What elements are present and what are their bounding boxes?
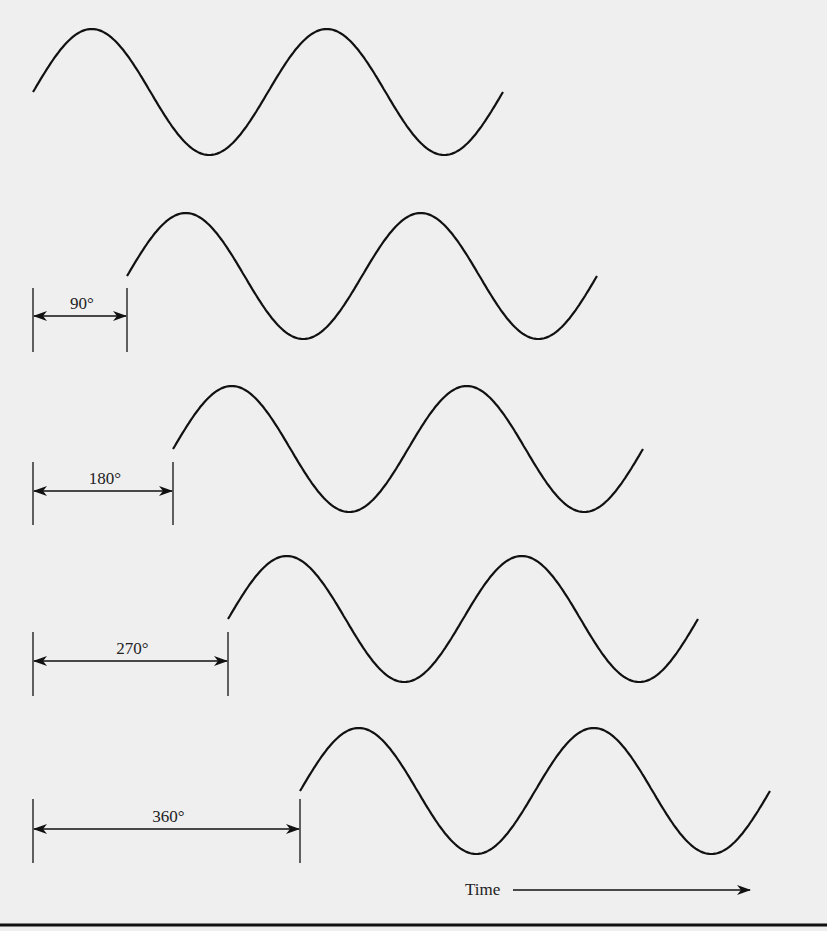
- sine-wave-shift-360: [300, 728, 770, 854]
- sine-wave-reference: [33, 29, 503, 155]
- time-axis-label: Time: [465, 880, 500, 900]
- phase-shift-diagram: [0, 0, 827, 931]
- phase-label: 360°: [152, 807, 184, 827]
- sine-wave-shift-90: [127, 213, 597, 339]
- phase-label: 90°: [70, 294, 94, 314]
- sine-wave-shift-270: [228, 556, 698, 682]
- phase-label: 270°: [116, 639, 148, 659]
- phase-dimension-markers: [33, 288, 300, 863]
- sine-wave-shift-180: [173, 386, 643, 512]
- sine-waves: [33, 29, 770, 854]
- phase-label: 180°: [89, 469, 121, 489]
